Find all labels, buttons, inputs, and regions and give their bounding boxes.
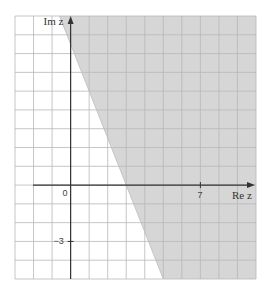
complex-plane-diagram: 7−3 Re z Im z 0 [0,0,265,284]
y-tick-label: −3 [54,236,64,246]
x-tick-label: 7 [197,190,202,200]
imaginary-axis-label: Im z [44,15,64,27]
real-axis-label: Re z [232,189,252,201]
origin-label: 0 [63,188,68,198]
